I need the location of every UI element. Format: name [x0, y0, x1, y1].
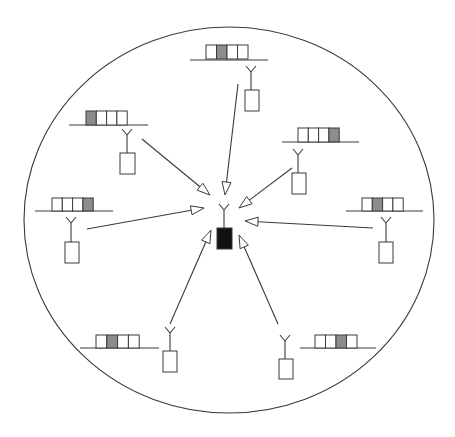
- coverage-area-boundary: [24, 27, 434, 413]
- time-slot: [326, 335, 337, 348]
- time-slot: [206, 45, 217, 59]
- arrowhead-icon: [239, 197, 252, 208]
- transmission-arrow: [245, 217, 373, 228]
- time-slot: [238, 45, 249, 59]
- tdma-frame: [80, 335, 159, 348]
- peripheral-nodes: [35, 45, 423, 379]
- time-slot: [362, 198, 372, 211]
- assigned-time-slot: [217, 45, 228, 59]
- antenna-icon: [165, 327, 175, 333]
- assigned-time-slot: [107, 335, 118, 348]
- time-slot: [308, 128, 318, 142]
- transmission-arrow: [239, 168, 292, 208]
- node-left: [35, 198, 113, 263]
- transmission-arrow: [170, 230, 211, 324]
- time-slot: [128, 335, 139, 348]
- tdma-frame: [190, 45, 268, 60]
- tdma-frame: [282, 128, 359, 142]
- time-slot: [62, 198, 72, 211]
- transmission-arrow: [142, 139, 210, 195]
- device-icon: [65, 242, 79, 263]
- time-slot: [383, 198, 393, 211]
- time-slot: [96, 111, 106, 125]
- arrowhead-icon: [222, 182, 231, 195]
- time-slot: [298, 128, 308, 142]
- assigned-time-slot: [336, 335, 347, 348]
- device-icon: [163, 351, 177, 372]
- tdma-frame: [346, 198, 423, 211]
- master-device-icon: [217, 228, 232, 249]
- device-icon: [279, 359, 293, 379]
- assigned-time-slot: [372, 198, 382, 211]
- node-upper-left: [69, 111, 148, 174]
- arrowhead-icon: [239, 235, 248, 249]
- antenna-icon: [66, 217, 76, 223]
- time-slot: [393, 198, 403, 211]
- tdma-frame: [35, 198, 113, 211]
- node-top: [190, 45, 268, 111]
- time-slot: [96, 335, 107, 348]
- time-slot: [107, 111, 117, 125]
- assigned-time-slot: [83, 198, 93, 211]
- time-slot: [315, 335, 326, 348]
- tdma-frame: [69, 111, 148, 125]
- node-lower-right: [279, 335, 376, 379]
- tdma-frame: [300, 335, 376, 348]
- device-icon: [120, 153, 135, 174]
- device-icon: [379, 242, 393, 263]
- assigned-time-slot: [86, 111, 96, 125]
- node-right: [346, 198, 423, 263]
- device-icon: [245, 90, 259, 111]
- time-slot: [227, 45, 238, 59]
- time-slot: [73, 198, 83, 211]
- arrowhead-icon: [197, 183, 210, 195]
- star-network-diagram: [0, 0, 455, 437]
- time-slot: [347, 335, 358, 348]
- diagram-canvas: [0, 0, 455, 437]
- transmission-arrows: [87, 84, 373, 324]
- node-upper-right: [282, 128, 359, 194]
- transmission-arrow: [239, 235, 278, 324]
- time-slot: [52, 198, 62, 211]
- device-icon: [292, 173, 306, 194]
- antenna-icon: [122, 129, 132, 135]
- antenna-icon: [381, 217, 391, 223]
- arrowhead-icon: [202, 230, 211, 244]
- arrowhead-icon: [245, 217, 258, 226]
- time-slot: [319, 128, 329, 142]
- antenna-icon: [246, 66, 256, 72]
- transmission-arrow: [87, 206, 204, 229]
- time-slot: [118, 335, 129, 348]
- arrowhead-icon: [190, 206, 204, 215]
- antenna-icon: [280, 335, 290, 341]
- transmission-arrow: [222, 84, 238, 195]
- antenna-icon: [293, 149, 303, 155]
- master-antenna-icon: [219, 204, 229, 210]
- assigned-time-slot: [329, 128, 339, 142]
- time-slot: [117, 111, 127, 125]
- master-node: [217, 204, 232, 249]
